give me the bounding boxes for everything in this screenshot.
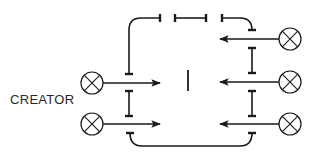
top-segment xyxy=(175,14,206,22)
lamp-icon xyxy=(279,28,301,50)
bottom-path xyxy=(126,133,256,146)
creator-label: CREATOR xyxy=(10,92,74,108)
lamp-icon xyxy=(81,113,103,135)
top-right-path xyxy=(222,14,256,30)
lamp-icon xyxy=(81,72,103,94)
circuit-diagram xyxy=(0,0,314,161)
ibeam-connectors xyxy=(125,14,256,116)
top-left-path xyxy=(125,14,160,74)
left-ibeam xyxy=(125,91,133,116)
lamp-icon xyxy=(279,113,301,135)
connector-paths xyxy=(125,14,256,146)
right-ibeam-1 xyxy=(248,48,256,73)
lamp-icon xyxy=(279,71,301,93)
right-ibeam-2 xyxy=(248,91,256,116)
